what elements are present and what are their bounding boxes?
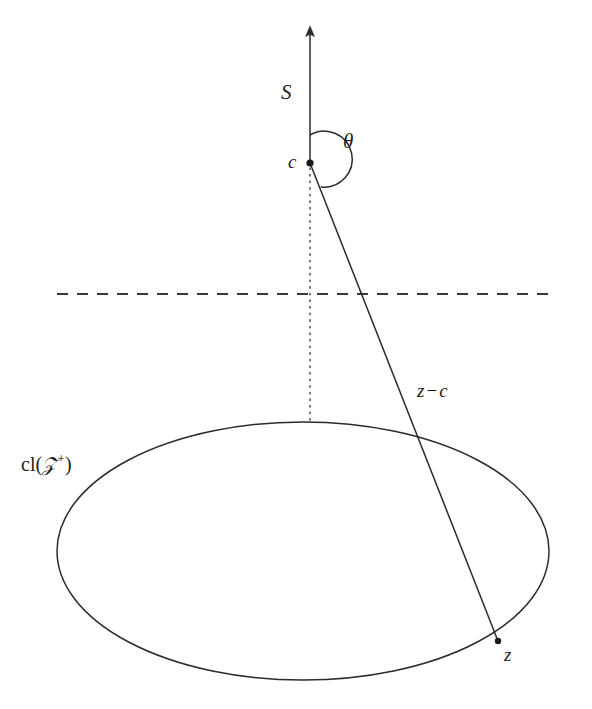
ray-s-group [306,26,315,163]
label-set-symbol-z: 𝒵 [42,452,58,476]
label-closure-prefix: cl( [21,453,42,475]
point-c-marker [306,159,313,166]
segment-c-to-z [310,163,498,641]
label-set-closure: cl(𝒵+) [21,452,72,474]
label-point-z: z [504,645,511,664]
label-vector-minus-operator: − [424,380,439,401]
label-ray-s: S [281,82,292,103]
diagram-svg [0,0,592,709]
point-z-marker [495,638,501,644]
figure-canvas: S θ c z−c cl(𝒵+) z [0,0,592,709]
label-closure-suffix: ) [65,453,72,475]
ellipse-boundary [57,422,549,680]
label-set-superscript-plus: + [58,451,65,466]
label-vector-z-minus-c: z−c [417,381,448,400]
label-vector-c-term: c [439,380,447,401]
label-point-c: c [288,152,296,171]
label-angle-theta: θ [343,131,353,152]
